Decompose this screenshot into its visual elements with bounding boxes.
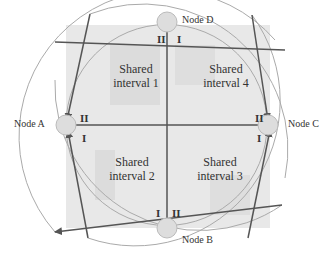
interval-4-label: Sharedinterval 4 bbox=[186, 62, 266, 90]
marker-b-i: I bbox=[156, 207, 160, 219]
node-a-label: Node A bbox=[14, 118, 45, 129]
marker-a-ii: II bbox=[80, 112, 89, 124]
marker-c-i: I bbox=[257, 132, 261, 144]
node-b-label: Node B bbox=[182, 234, 213, 245]
marker-b-ii: II bbox=[172, 207, 181, 219]
marker-a-i: I bbox=[82, 132, 86, 144]
interval-2-label: Sharedinterval 2 bbox=[92, 155, 172, 183]
node-d-label: Node D bbox=[182, 14, 213, 25]
diagram-canvas bbox=[0, 0, 334, 253]
node-a-circle bbox=[56, 115, 76, 135]
node-b-circle bbox=[157, 218, 177, 238]
interval-3-label: Sharedinterval 3 bbox=[180, 155, 260, 183]
interval-1-label: Sharedinterval 1 bbox=[96, 62, 176, 90]
marker-c-ii: II bbox=[255, 112, 264, 124]
node-c-label: Node C bbox=[288, 118, 319, 129]
marker-d-i: I bbox=[177, 33, 181, 45]
node-d-circle bbox=[157, 12, 177, 32]
marker-d-ii: II bbox=[157, 33, 166, 45]
